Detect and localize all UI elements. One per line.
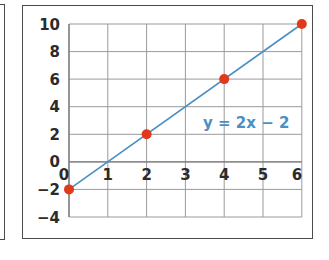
x-tick-label-4: 4 (219, 166, 229, 184)
data-point-4-6 (219, 74, 229, 84)
x-tick-label-1: 1 (103, 166, 113, 184)
data-point-2-2 (142, 129, 152, 139)
x-tick-label-3: 3 (180, 166, 190, 184)
y-tick-label-10: 10 (39, 16, 60, 34)
data-point-6-10 (297, 19, 307, 29)
x-axis-tick-labels: 0 1 2 3 4 5 6 (59, 166, 302, 184)
equation-annotation-label: y = 2x − 2 (203, 114, 289, 132)
y-tick-label-4: 4 (50, 98, 60, 116)
y-tick-label-8: 8 (50, 43, 60, 61)
y-tick-label-minus-4: −4 (37, 209, 60, 227)
x-tick-label-0: 0 (59, 166, 69, 184)
y-axis-tick-labels: 10 8 6 4 2 0 −2 −4 (37, 16, 60, 227)
chart-plot-area: 10 8 6 4 2 0 −2 −4 0 1 2 3 4 5 6 y = 2x … (0, 0, 329, 260)
y-tick-label-2: 2 (50, 126, 60, 144)
x-tick-label-6: 6 (292, 166, 302, 184)
data-point-0--2 (64, 184, 74, 194)
x-tick-label-5: 5 (258, 166, 268, 184)
line-chart-svg: 10 8 6 4 2 0 −2 −4 0 1 2 3 4 5 6 y = 2x … (0, 0, 329, 260)
x-tick-label-2: 2 (141, 166, 151, 184)
y-tick-label-6: 6 (50, 71, 60, 89)
y-tick-label-minus-2: −2 (37, 181, 60, 199)
